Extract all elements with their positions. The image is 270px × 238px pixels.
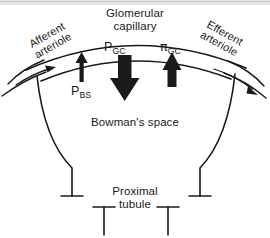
- proximal-tubule-label-line1: Proximal: [112, 185, 158, 197]
- pi-gc-arrow: [163, 52, 182, 87]
- glomerular-capillary-label-line1: Glomerular: [106, 7, 164, 19]
- efferent-arteriole-wall-inner: [224, 73, 266, 98]
- pi-gc-symbol: π: [160, 39, 168, 54]
- bowmans-capsule-left-wall: [37, 76, 72, 196]
- p-bs-subscript: BS: [79, 90, 91, 100]
- pi-gc-label: πGC: [160, 40, 181, 54]
- pi-gc-subscript: GC: [168, 46, 181, 56]
- capillary-inner-wall: [41, 61, 231, 81]
- p-bs-label: PBS: [71, 84, 91, 98]
- bowmans-capsule-right-wall: [200, 74, 235, 196]
- proximal-tubule-label: Proximal tubule: [0, 185, 270, 211]
- glomerular-filtration-diagram: Glomerular capillary Afferent arteriole …: [0, 0, 270, 238]
- p-gc-label: PGC: [104, 40, 126, 54]
- proximal-tubule-label-line2: tubule: [0, 198, 270, 211]
- p-gc-subscript: GC: [112, 46, 125, 56]
- afferent-flow-arrow-head: [45, 66, 56, 73]
- bowmans-space-label: Bowman's space: [0, 116, 270, 129]
